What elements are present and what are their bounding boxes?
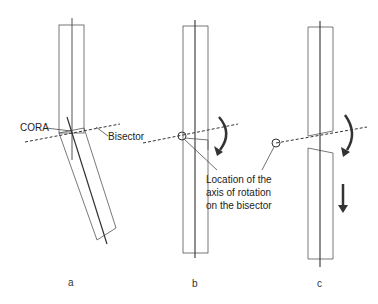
rotation-arrow-icon: [345, 115, 352, 150]
wedge-outline: [185, 138, 208, 150]
panel-a: CORA Bisector a: [20, 18, 145, 288]
panel-a-caption: a: [68, 277, 74, 288]
axis-leader-b: [184, 139, 217, 170]
translation-arrowhead-icon: [338, 205, 348, 213]
axis-label-line3: on the bisector: [206, 200, 272, 211]
panel-b-caption: b: [192, 278, 198, 289]
panel-c: c: [262, 21, 367, 289]
osteotomy-diagram: CORA Bisector a Location of the axis of …: [0, 0, 378, 304]
cora-label: CORA: [20, 122, 49, 133]
rotation-arrow-icon: [219, 117, 226, 150]
bisector-line: [276, 127, 367, 143]
axis-leader-c: [262, 147, 274, 170]
axis-label-line2: axis of rotation: [206, 187, 271, 198]
cora-leader: [46, 128, 71, 131]
panel-b: Location of the axis of rotation on the …: [143, 20, 272, 289]
panel-c-caption: c: [317, 278, 322, 289]
bisector-label: Bisector: [108, 131, 145, 142]
axis-label-line1: Location of the: [206, 174, 272, 185]
bisector-leader: [96, 127, 108, 136]
